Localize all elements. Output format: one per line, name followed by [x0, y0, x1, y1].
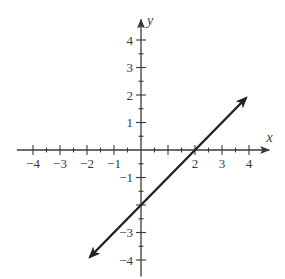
axes: xy	[17, 13, 274, 277]
x-tick-label: 4	[246, 156, 253, 171]
y-tick-label: −4	[119, 253, 133, 268]
y-tick-label: −1	[119, 170, 133, 185]
x-axis-label: x	[266, 130, 274, 145]
y-tick-label: 3	[127, 60, 134, 75]
line-y-equals-x-minus-2	[90, 98, 247, 258]
cropped-heading	[128, 0, 156, 2]
x-tick-label: −4	[26, 156, 40, 171]
data-series	[90, 98, 247, 258]
coordinate-plane: xy −4−3−2−12344321−1−3−4	[0, 0, 285, 279]
y-tick-label: −3	[119, 225, 133, 240]
y-tick-label: 2	[127, 88, 134, 103]
y-tick-label: 4	[127, 33, 134, 48]
y-tick-label: 1	[127, 115, 134, 130]
x-tick-label: 2	[192, 156, 199, 171]
x-tick-label: −3	[53, 156, 67, 171]
y-axis-label: y	[145, 13, 154, 28]
x-tick-label: 3	[219, 156, 226, 171]
x-tick-label: −1	[107, 156, 121, 171]
x-tick-label: −2	[80, 156, 94, 171]
